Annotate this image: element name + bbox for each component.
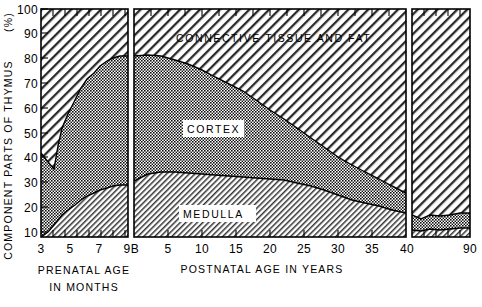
ytick-70: 70 [24, 77, 38, 91]
ytick-10: 10 [24, 226, 38, 240]
ytick-40: 40 [24, 151, 38, 165]
thymus-composition-chart: 3 5 7 9 PRENATAL AGE IN MONTHS [0, 0, 482, 307]
ytick-90: 90 [24, 27, 38, 41]
ytick-100: 100 [17, 3, 38, 17]
yaxis-unit: (%) [2, 12, 14, 32]
xtick-postnatal-4: 20 [263, 242, 277, 256]
xaxis-title-postnatal: POSTNATAL AGE IN YEARS [180, 263, 343, 275]
xtick-postnatal-5: 25 [297, 242, 311, 256]
ytick-60: 60 [24, 102, 38, 116]
ytick-20: 20 [24, 201, 38, 215]
xtick-prenatal-1: 5 [67, 242, 74, 256]
xtick-prenatal-0: 3 [38, 242, 45, 256]
xtick-prenatal-2: 7 [96, 242, 103, 256]
panel-old-age: 90 [412, 9, 477, 256]
xaxis-title-prenatal-line1: PRENATAL AGE [38, 264, 130, 276]
label-medulla: MEDULLA [183, 208, 244, 220]
ytick-50: 50 [24, 127, 38, 141]
xtick-prenatal-3: 9 [124, 242, 131, 256]
xtick-postnatal-0: B [131, 242, 139, 256]
xtick-postnatal-8: 40 [400, 242, 414, 256]
area-connective-old-age [412, 9, 470, 237]
label-connective-tissue-and-fat: CONNECTIVE TISSUE AND FAT [176, 32, 371, 44]
panel-postnatal: B 5 10 15 20 25 30 35 40 POSTNATAL AGE I… [131, 9, 414, 275]
ytick-80: 80 [24, 52, 38, 66]
xtick-postnatal-2: 10 [195, 242, 209, 256]
label-cortex: CORTEX [187, 123, 240, 135]
xtick-old-age-1: 90 [463, 242, 477, 256]
xtick-postnatal-6: 30 [331, 242, 345, 256]
yaxis-title: COMPONENT PARTS OF THYMUS [2, 60, 14, 260]
xtick-postnatal-7: 35 [365, 242, 379, 256]
xtick-postnatal-3: 15 [229, 242, 243, 256]
chart-root: 3 5 7 9 PRENATAL AGE IN MONTHS [0, 0, 482, 307]
xaxis-title-prenatal-line2: IN MONTHS [49, 281, 119, 293]
xtick-postnatal-1: 5 [165, 242, 172, 256]
ytick-30: 30 [24, 176, 38, 190]
